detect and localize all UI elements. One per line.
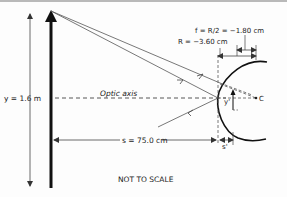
- image-distance-label: s': [222, 143, 228, 151]
- ray-1: [51, 11, 252, 95]
- diagram-canvas: y = 1.6 m Optic axis f = R/2 = −1.80 cm …: [0, 0, 287, 197]
- object-distance-label: s = 75.0 cm: [122, 136, 167, 145]
- ray-diagram: y = 1.6 m Optic axis f = R/2 = −1.80 cm …: [0, 0, 287, 197]
- focal-length-label: f = R/2 = −1.80 cm: [195, 27, 264, 35]
- reflected-ray: [158, 98, 218, 127]
- extension-to-center: [218, 84, 257, 99]
- object-height-label: y = 1.6 m: [4, 94, 41, 103]
- image-height-label: y': [224, 98, 230, 106]
- focal-dimension: [237, 35, 256, 56]
- center-of-curvature-label: C: [259, 95, 264, 103]
- not-to-scale-note: NOT TO SCALE: [118, 175, 174, 184]
- radius-label: R = −3.60 cm: [178, 38, 228, 46]
- object-arrow: [45, 10, 57, 188]
- optic-axis-label: Optic axis: [100, 89, 137, 98]
- ray-2: [51, 11, 218, 98]
- image-arrow: [231, 89, 239, 110]
